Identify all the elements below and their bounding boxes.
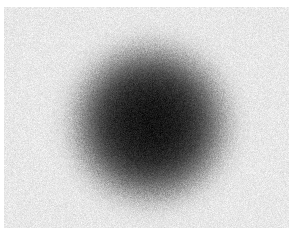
figure-root [0, 0, 296, 241]
noisy-image-canvas [4, 7, 289, 228]
